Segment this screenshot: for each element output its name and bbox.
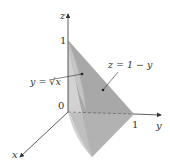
- x-axis-label: x: [12, 149, 18, 160]
- x-axis: [20, 112, 68, 157]
- y-tick-label: 1: [132, 119, 138, 130]
- leader-dot-curve: [81, 73, 84, 76]
- y-axis: [134, 114, 161, 115]
- plane-annotation: z = 1 − y: [107, 59, 153, 70]
- z-axis-label: z: [59, 10, 66, 21]
- y-axis-label: y: [155, 120, 162, 131]
- z-tick-label: 1: [60, 35, 66, 46]
- leader-plane: [103, 72, 118, 90]
- solid-diagram: z 1 0 1 y x y = √x z = 1 − y: [0, 0, 170, 165]
- leader-dot-plane: [102, 89, 105, 92]
- surface-front: [70, 113, 134, 157]
- curve-annotation: y = √x: [29, 76, 61, 87]
- origin-label: 0: [58, 100, 64, 111]
